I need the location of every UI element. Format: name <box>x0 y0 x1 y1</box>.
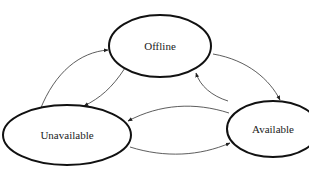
node-offline: Offline <box>109 15 211 77</box>
edge-offline-to-available <box>213 54 280 100</box>
node-unavailable: Unavailable <box>3 105 131 165</box>
edge-offline-to-unavailable <box>84 68 125 106</box>
edge-unavailable-to-available <box>130 143 230 154</box>
node-unavailable-label: Unavailable <box>40 129 93 141</box>
node-available-label: Available <box>252 123 294 135</box>
edge-available-to-unavailable <box>128 106 229 121</box>
state-diagram: Offline Unavailable Available <box>0 0 309 175</box>
node-available: Available <box>227 101 309 157</box>
edge-unavailable-to-offline <box>40 50 108 110</box>
edge-available-to-offline <box>196 73 228 101</box>
node-offline-label: Offline <box>144 40 176 52</box>
